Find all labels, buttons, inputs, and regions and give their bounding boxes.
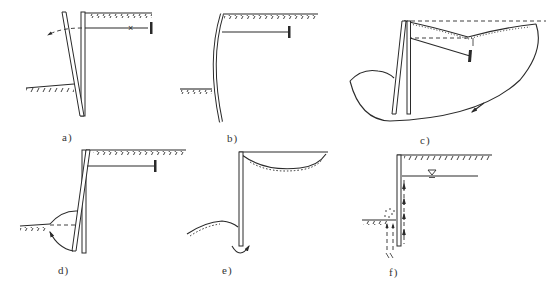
diagram-svg: × [0, 0, 558, 292]
wall [239, 152, 243, 246]
passive-wedge-arrow [50, 232, 73, 251]
boiling-sand-particles [384, 208, 395, 218]
soil-hatching [26, 88, 74, 92]
panel-c [350, 21, 546, 121]
excavation-surface [350, 70, 394, 81]
anchor-plate [468, 50, 472, 62]
panel-d [20, 150, 186, 253]
anchor-plate [288, 26, 291, 38]
soil-hatching [181, 90, 212, 94]
wall [397, 155, 401, 246]
wall-original [407, 21, 411, 114]
panel-label-f: f) [389, 266, 398, 278]
panel-b [180, 14, 318, 122]
diagram-canvas: × [0, 0, 558, 292]
water-level-icon [428, 170, 436, 175]
panel-a: × [26, 12, 153, 116]
settled-ground-surface [242, 154, 326, 169]
heaved-soil-surface [50, 211, 78, 224]
excavation-surface [20, 224, 50, 226]
panel-label-e: e) [222, 264, 233, 276]
anchor-plate [154, 160, 157, 172]
soil-hatching [20, 227, 48, 231]
tie-rod [410, 38, 470, 56]
basal-heave-arrow [232, 246, 249, 253]
soil-hatching [93, 151, 186, 155]
wall-rotated [72, 150, 90, 251]
settled-ground-surface [404, 21, 536, 37]
panel-label-a: a) [62, 131, 73, 143]
panel-label-d: d) [58, 264, 69, 276]
soil-hatching [224, 15, 318, 19]
wall-tilted [392, 21, 406, 114]
anchor-plate [150, 22, 153, 34]
panel-label-b: b) [227, 132, 238, 144]
excavation-surface [26, 84, 74, 88]
soil-hatching [88, 14, 152, 18]
excavation-surface [187, 221, 238, 234]
panel-label-c: c) [420, 134, 431, 146]
soil-hatching [404, 156, 492, 160]
panel-e [187, 152, 328, 253]
panel-f [362, 155, 492, 258]
soil-hatching [363, 221, 389, 225]
rod-break-mark: × [128, 23, 133, 33]
slip-surface [350, 24, 538, 121]
